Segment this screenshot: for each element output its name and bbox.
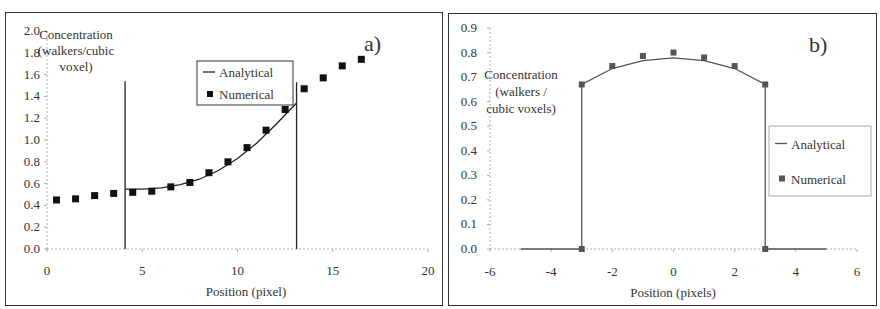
x-axis-label: Position (pixels)	[630, 285, 716, 300]
y-tick-label: 0.0	[24, 241, 40, 256]
x-tick-label: 6	[854, 264, 861, 279]
x-tick-label: 0	[670, 264, 677, 279]
x-tick-label: 10	[231, 263, 244, 278]
numerical-marker	[762, 81, 768, 87]
numerical-marker	[205, 169, 212, 176]
x-tick-label: -2	[607, 264, 618, 279]
numerical-marker	[53, 196, 60, 203]
numerical-marker	[224, 158, 231, 165]
x-axis-label: Position (pixel)	[206, 284, 287, 299]
chart-a-plot: 0.00.20.40.60.81.01.21.41.61.82.00510152…	[6, 13, 444, 307]
y-tick-label: 0.5	[461, 118, 477, 133]
y-axis-label: (walkers/cubic	[38, 43, 115, 58]
legend: AnalyticalNumerical	[197, 61, 293, 105]
y-tick-label: 0.2	[24, 219, 40, 234]
numerical-marker	[91, 192, 98, 199]
legend-label: Analytical	[791, 137, 846, 152]
y-axis-label: cubic voxels)	[486, 101, 556, 116]
y-tick-label: 1.6	[24, 67, 41, 82]
y-tick-label: 2.0	[24, 23, 40, 38]
numerical-marker	[609, 63, 615, 69]
legend-label: Numerical	[791, 172, 846, 187]
y-tick-label: 0.6	[461, 94, 478, 109]
numerical-marker	[186, 179, 193, 186]
panel-label: b)	[809, 32, 827, 57]
numerical-marker	[244, 144, 251, 151]
y-axis-label: Concentration	[39, 27, 113, 42]
numerical-marker	[358, 56, 365, 63]
numerical-marker	[671, 50, 677, 56]
panel-label: a)	[364, 31, 381, 56]
numerical-marker	[167, 183, 174, 190]
y-tick-label: 1.4	[24, 88, 41, 103]
x-tick-label: 0	[44, 263, 51, 278]
y-axis-label: (walkers /	[495, 84, 547, 99]
numerical-marker	[762, 246, 768, 252]
numerical-marker	[579, 246, 585, 252]
numerical-marker	[301, 85, 308, 92]
numerical-marker	[72, 195, 79, 202]
legend-marker-icon	[207, 91, 213, 97]
numerical-marker	[110, 190, 117, 197]
legend: AnalyticalNumerical	[769, 126, 871, 196]
numerical-marker	[320, 74, 327, 81]
chart-panel-b: 0.00.10.20.30.40.50.60.70.80.9-6-4-20246…	[448, 13, 877, 306]
numerical-marker	[732, 63, 738, 69]
legend-label: Analytical	[219, 65, 274, 80]
y-tick-label: 0.4	[461, 143, 478, 158]
numerical-marker	[282, 106, 289, 113]
y-tick-label: 0.0	[461, 241, 477, 256]
x-tick-label: 2	[731, 264, 738, 279]
y-tick-label: 0.9	[461, 20, 477, 35]
x-tick-label: 20	[422, 263, 435, 278]
y-tick-label: 0.2	[461, 192, 477, 207]
y-axis-label: voxel)	[59, 59, 92, 74]
y-tick-label: 0.4	[24, 197, 41, 212]
chart-b-plot: 0.00.10.20.30.40.50.60.70.80.9-6-4-20246…	[449, 14, 878, 307]
numerical-marker	[129, 189, 136, 196]
x-tick-label: 4	[793, 264, 800, 279]
y-axis-label: Concentration	[484, 67, 558, 82]
y-tick-label: 0.8	[24, 154, 40, 169]
numerical-marker	[640, 53, 646, 59]
y-tick-label: 0.3	[461, 167, 477, 182]
y-tick-label: 0.7	[461, 69, 478, 84]
legend-label: Numerical	[219, 87, 274, 102]
x-tick-label: 5	[139, 263, 146, 278]
numerical-marker	[701, 54, 707, 60]
y-tick-label: 0.8	[461, 45, 477, 60]
numerical-marker	[579, 81, 585, 87]
legend-marker-icon	[779, 176, 785, 182]
y-tick-label: 1.2	[24, 110, 40, 125]
x-tick-label: -4	[546, 264, 557, 279]
chart-panel-a: 0.00.20.40.60.81.01.21.41.61.82.00510152…	[5, 12, 443, 306]
y-tick-label: 0.6	[24, 176, 41, 191]
numerical-marker	[148, 188, 155, 195]
y-tick-label: 0.1	[461, 216, 477, 231]
numerical-marker	[339, 62, 346, 69]
x-tick-label: -6	[485, 264, 496, 279]
numerical-marker	[263, 127, 270, 134]
x-tick-label: 15	[326, 263, 339, 278]
y-tick-label: 1.0	[24, 132, 40, 147]
